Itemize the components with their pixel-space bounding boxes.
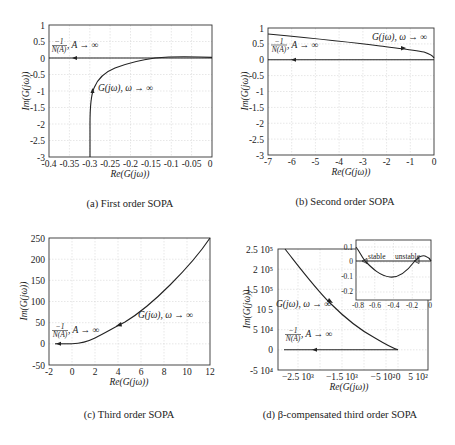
svg-text:-2: -2 (37, 120, 45, 130)
svg-text:-0.3: -0.3 (82, 159, 97, 169)
caption-a: (a) First order SOPA (87, 198, 174, 210)
svg-text:-7: -7 (264, 157, 272, 167)
svg-text:N(A): N(A) (52, 330, 68, 339)
plot-d-x-ticks: −2.5 10³ −1.5 10³ −5 10² 0 5 10² (282, 372, 428, 382)
plot-d-arrow-left-icon (312, 348, 317, 352)
caption-c: (c) Third order SOPA (84, 409, 175, 421)
svg-text:2: 2 (93, 367, 98, 377)
svg-text:1: 1 (40, 21, 45, 31)
svg-text:2 10⁵: 2 10⁵ (253, 265, 273, 275)
inset-x-ticks: -0.8 -0.6 -0.4 -0.2 0 (352, 301, 432, 310)
svg-text:-3: -3 (359, 157, 367, 167)
plot-d-nyquist-label: G(jω), ω → ∞ (276, 299, 331, 310)
plot-c-x-label: Re(G(jω)) (109, 377, 149, 388)
svg-text:-2.5: -2.5 (30, 136, 45, 146)
plot-d-x-label: Re(G(jω)) (329, 382, 369, 393)
plot-c-x-ticks: -2 0 2 4 6 8 10 12 (45, 367, 215, 377)
svg-text:50: 50 (36, 318, 46, 328)
plot-b-x-label: Re(G(jω)) (331, 167, 371, 178)
svg-text:-5: -5 (311, 157, 319, 167)
svg-text:-0.4: -0.4 (388, 301, 400, 310)
svg-text:, A → ∞: , A → ∞ (68, 325, 99, 335)
svg-text:2.5 10⁵: 2.5 10⁵ (246, 245, 273, 255)
plot-b-y-ticks: 1 0.5 0 -0.5 -1 -1.5 -2 -2.5 -3 (249, 24, 264, 161)
plot-c-arrow-left-icon (56, 342, 61, 346)
plot-c-y-ticks: 250 200 150 100 50 0 -50 (31, 234, 46, 371)
svg-text:10 5: 10 5 (256, 305, 273, 315)
svg-text:4: 4 (116, 367, 121, 377)
svg-text:N(A): N(A) (285, 334, 301, 343)
svg-text:−1.5 10³: −1.5 10³ (326, 372, 358, 382)
svg-text:-0.2: -0.2 (406, 301, 418, 310)
svg-text:0: 0 (259, 55, 264, 65)
plot-d-inset: stable unstable 0.1 0 -0.1 -0.2 -0.8 -0.… (341, 240, 432, 310)
plot-a-y-ticks: 1 0.5 0 -0.5 -1 -1.5 -2 -2.5 -3 (30, 21, 45, 163)
svg-text:0: 0 (208, 159, 213, 169)
svg-text:, A → ∞: , A → ∞ (67, 40, 98, 50)
svg-text:8: 8 (162, 367, 167, 377)
svg-text:-1.5: -1.5 (30, 103, 45, 113)
caption-d: (d) β-compensated third order SOPA (263, 409, 418, 421)
svg-text:100: 100 (31, 297, 46, 307)
svg-text:-1: -1 (37, 87, 45, 97)
svg-text:-2.5: -2.5 (249, 135, 264, 145)
svg-text:5 10⁴: 5 10⁴ (253, 325, 274, 335)
figure: 1 0.5 0 -0.5 -1 -1.5 -2 -2.5 -3 -0.4 -0.… (0, 0, 455, 445)
plot-c-describing-fn-label: −1 N(A) , A → ∞ (52, 322, 100, 339)
svg-text:-0.2: -0.2 (341, 287, 353, 296)
svg-text:0: 0 (40, 339, 45, 349)
svg-text:-0.15: -0.15 (141, 159, 161, 169)
svg-text:-0.6: -0.6 (369, 301, 381, 310)
svg-text:N(A): N(A) (51, 45, 67, 54)
svg-text:-50: -50 (32, 361, 45, 371)
svg-text:0.1: 0.1 (344, 243, 354, 252)
svg-text:−2.5 10³: −2.5 10³ (282, 372, 314, 382)
plot-a-nyquist-label: G(jω), ω → ∞ (98, 83, 153, 94)
svg-text:0.5: 0.5 (33, 37, 45, 47)
svg-text:0: 0 (268, 345, 273, 355)
svg-text:-0.1: -0.1 (164, 159, 179, 169)
svg-text:-0.4: -0.4 (41, 159, 56, 169)
svg-text:-3: -3 (256, 151, 264, 161)
svg-text:-2: -2 (45, 367, 53, 377)
plot-c-nyquist-label: G(jω), ω → ∞ (138, 310, 193, 321)
svg-text:0: 0 (70, 367, 75, 377)
svg-text:, A → ∞: , A → ∞ (301, 329, 332, 339)
svg-text:5 10²: 5 10² (408, 372, 428, 382)
plot-c: 250 200 150 100 50 0 -50 -2 0 2 4 6 8 10… (19, 234, 215, 422)
svg-text:150: 150 (31, 276, 46, 286)
svg-text:-2: -2 (383, 157, 391, 167)
svg-text:-0.05: -0.05 (182, 159, 202, 169)
svg-text:0: 0 (428, 301, 432, 310)
svg-text:-6: -6 (288, 157, 296, 167)
svg-text:-0.5: -0.5 (249, 71, 264, 81)
svg-text:200: 200 (31, 255, 46, 265)
plot-b: 1 0.5 0 -0.5 -1 -1.5 -2 -2.5 -3 -7 -6 -5… (240, 24, 437, 209)
plot-b-x-ticks: -7 -6 -5 -4 -3 -2 -1 0 (264, 157, 437, 167)
svg-text:6: 6 (139, 367, 144, 377)
plot-b-describing-fn-label: −1 N(A) , A → ∞ (271, 37, 319, 54)
svg-text:250: 250 (31, 234, 46, 244)
plot-d-y-label: Im(G(jω)) (242, 290, 253, 330)
svg-text:12: 12 (205, 367, 215, 377)
svg-text:0: 0 (396, 372, 401, 382)
plot-a-x-ticks: -0.4 -0.35 -0.3 -0.25 -0.2 -0.15 -0.1 -0… (41, 159, 212, 169)
plot-c-grid (49, 238, 210, 365)
svg-text:1: 1 (259, 24, 264, 34)
svg-text:0: 0 (40, 54, 45, 64)
svg-text:-4: -4 (335, 157, 343, 167)
svg-text:0.5: 0.5 (252, 39, 264, 49)
plot-b-nyquist-label: G(jω), ω → ∞ (372, 32, 427, 43)
plot-b-y-label: Im(G(jω)) (240, 72, 251, 112)
svg-text:0: 0 (349, 257, 353, 266)
plot-a-arrow-left-icon (72, 56, 77, 60)
svg-text:-0.8: -0.8 (352, 301, 364, 310)
plot-a: 1 0.5 0 -0.5 -1 -1.5 -2 -2.5 -3 -0.4 -0.… (21, 21, 213, 211)
svg-text:-0.5: -0.5 (30, 70, 45, 80)
plot-d-describing-fn-label: −1 N(A) , A → ∞ (285, 326, 333, 343)
svg-text:-2: -2 (256, 119, 264, 129)
svg-text:, A → ∞: , A → ∞ (287, 40, 318, 50)
plot-a-describing-fn-label: −1 N(A) , A → ∞ (51, 37, 99, 54)
svg-text:-1: -1 (406, 157, 414, 167)
svg-text:-5 10⁴: -5 10⁴ (250, 366, 274, 376)
